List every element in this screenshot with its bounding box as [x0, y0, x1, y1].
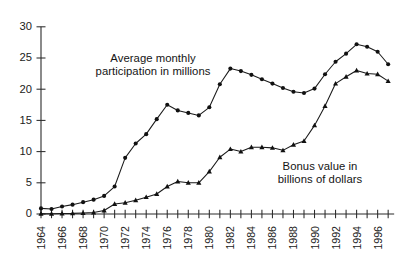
- data-point-triangle: [344, 74, 349, 79]
- x-tick-label: 1980: [203, 226, 215, 250]
- data-point-circle: [144, 132, 148, 136]
- x-tick-label: 1968: [77, 226, 89, 250]
- y-tick-label: 0: [26, 207, 32, 219]
- data-point-circle: [365, 45, 369, 49]
- data-point-circle: [155, 117, 159, 121]
- x-tick-label: 1990: [309, 226, 321, 250]
- data-point-circle: [228, 67, 232, 71]
- data-point-circle: [197, 113, 201, 117]
- data-point-triangle: [154, 191, 159, 196]
- annotation-bonus-value: Bonus value in billions of dollars: [250, 160, 390, 187]
- data-point-circle: [312, 87, 316, 91]
- data-point-circle: [334, 60, 338, 64]
- data-point-circle: [92, 198, 96, 202]
- data-point-circle: [102, 194, 106, 198]
- data-point-circle: [302, 91, 306, 95]
- data-point-circle: [239, 69, 243, 73]
- series-line-2: [41, 70, 388, 213]
- data-point-triangle: [322, 103, 327, 108]
- data-point-circle: [260, 77, 264, 81]
- x-tick-labels: 1964196619681970197219741976197819801982…: [35, 226, 384, 250]
- x-tick-label: 1964: [35, 226, 47, 250]
- x-tick-label: 1984: [245, 226, 257, 250]
- data-point-circle: [71, 203, 75, 207]
- data-point-circle: [60, 204, 64, 208]
- y-tick-label: 10: [20, 145, 32, 157]
- data-point-circle: [386, 62, 390, 66]
- x-tick-label: 1970: [98, 226, 110, 250]
- x-tick-label: 1972: [119, 226, 131, 250]
- data-point-circle: [123, 156, 127, 160]
- x-tick-label: 1994: [351, 226, 363, 250]
- data-point-circle: [270, 82, 274, 86]
- x-tick-label: 1988: [287, 226, 299, 250]
- data-point-circle: [291, 90, 295, 94]
- data-point-circle: [218, 82, 222, 86]
- x-tick-label: 1976: [161, 226, 173, 250]
- y-tick-label: 25: [20, 51, 32, 63]
- data-point-circle: [49, 207, 53, 211]
- x-tick-label: 1966: [56, 226, 68, 250]
- y-tick-label: 15: [20, 114, 32, 126]
- data-point-circle: [176, 108, 180, 112]
- line-chart-plot: 051015202530 196419661968197019721974197…: [0, 0, 408, 266]
- y-tick-label: 20: [20, 83, 32, 95]
- x-tick-label: 1996: [372, 226, 384, 250]
- data-point-circle: [81, 200, 85, 204]
- data-point-circle: [39, 206, 43, 210]
- data-point-circle: [344, 52, 348, 56]
- data-point-triangle: [175, 179, 180, 184]
- annotation-average-monthly-participation: Average monthly participation in million…: [78, 52, 228, 79]
- data-point-circle: [134, 141, 138, 145]
- data-point-triangle: [354, 68, 359, 73]
- data-point-triangle: [102, 208, 107, 213]
- x-tick-label: 1986: [266, 226, 278, 250]
- x-tick-label: 1992: [330, 226, 342, 250]
- chart-container: 051015202530 196419661968197019721974197…: [0, 0, 408, 266]
- x-tick-label: 1978: [182, 226, 194, 250]
- data-point-triangle: [333, 81, 338, 86]
- y-tick-label: 30: [20, 20, 32, 32]
- data-point-triangle: [228, 146, 233, 151]
- x-tick-label: 1974: [140, 226, 152, 250]
- data-point-circle: [113, 184, 117, 188]
- data-point-triangle: [386, 78, 391, 83]
- data-point-circle: [323, 72, 327, 76]
- data-point-circle: [281, 86, 285, 90]
- data-point-circle: [165, 103, 169, 107]
- data-point-circle: [355, 42, 359, 46]
- data-point-circle: [376, 50, 380, 54]
- data-point-circle: [186, 111, 190, 115]
- data-point-circle: [207, 105, 211, 109]
- data-point-triangle: [312, 123, 317, 128]
- y-axis: 051015202530: [20, 20, 46, 219]
- y-tick-label: 5: [26, 176, 32, 188]
- x-tick-label: 1982: [224, 226, 236, 250]
- data-point-circle: [249, 73, 253, 77]
